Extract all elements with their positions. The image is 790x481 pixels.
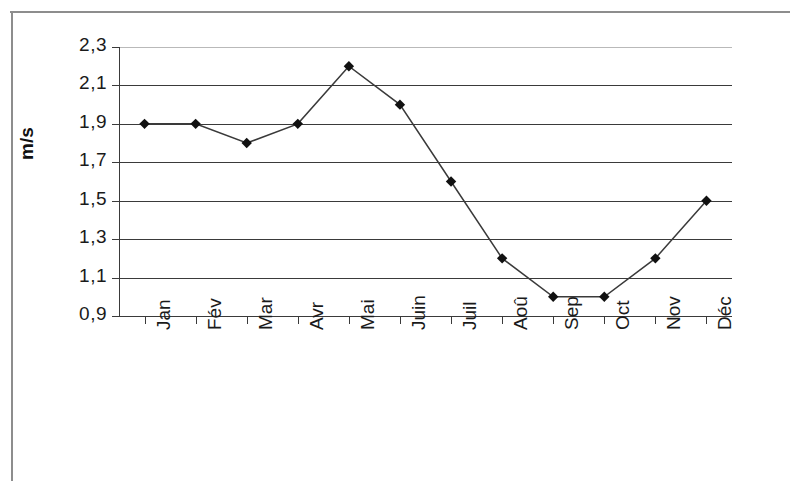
x-axis-tick-label: Mar: [255, 297, 277, 330]
gridline: [119, 201, 732, 202]
x-axis-tick-label: Juil: [459, 301, 481, 330]
y-axis-title: m/s: [16, 127, 38, 160]
y-axis-tick: [112, 201, 119, 202]
scanned-page: m/s 2,32,11,91,71,51,31,10,9 JanFévMarAv…: [0, 0, 790, 481]
y-axis-tick: [112, 239, 119, 240]
x-axis-tick: [298, 316, 299, 324]
y-axis-tick-label: 0,9: [47, 303, 107, 325]
x-axis-tick-label: Aoû: [510, 296, 532, 330]
y-axis-line: [119, 47, 120, 316]
x-axis-tick: [349, 316, 350, 324]
x-axis-tick-label: Nov: [663, 296, 685, 330]
y-axis-tick-label: 1,1: [47, 265, 107, 287]
x-axis-tick: [604, 316, 605, 324]
x-axis-tick-label: Avr: [306, 302, 328, 330]
x-axis-tick-label: Sep: [561, 296, 583, 330]
y-axis-tick: [112, 85, 119, 86]
y-axis-tick: [112, 47, 119, 48]
y-axis-tick-label: 1,9: [47, 111, 107, 133]
y-axis-tick-label: 1,7: [47, 149, 107, 171]
y-axis-tick: [112, 162, 119, 163]
x-axis-tick: [145, 316, 146, 324]
y-axis-tick-label: 1,5: [47, 188, 107, 210]
y-axis-tick: [112, 124, 119, 125]
y-axis-tick-label: 2,1: [47, 72, 107, 94]
x-axis-tick: [451, 316, 452, 324]
gridline: [119, 239, 732, 240]
x-axis-tick: [400, 316, 401, 324]
x-axis-tick-label: Juin: [408, 295, 430, 330]
y-axis-tick: [112, 316, 119, 317]
gridline: [119, 124, 732, 125]
x-axis-tick-label: Fév: [204, 298, 226, 330]
plot-area: [119, 47, 732, 316]
x-axis-tick: [247, 316, 248, 324]
x-axis-tick-label: Mai: [357, 299, 379, 330]
x-axis-tick: [655, 316, 656, 324]
x-axis-tick-label: Oct: [612, 300, 634, 330]
y-axis-tick-label: 1,3: [47, 226, 107, 248]
gridline: [119, 85, 732, 86]
y-axis-tick: [112, 278, 119, 279]
gridline: [119, 47, 732, 48]
y-axis-tick-labels: 2,32,11,91,71,51,31,10,9: [43, 0, 107, 481]
y-axis-tick-label: 2,3: [47, 34, 107, 56]
gridline: [119, 162, 732, 163]
gridline: [119, 278, 732, 279]
x-axis-tick: [706, 316, 707, 324]
x-axis-tick-label: Jan: [153, 299, 175, 330]
line-chart: m/s 2,32,11,91,71,51,31,10,9 JanFévMarAv…: [0, 0, 790, 481]
x-axis-tick-label: Déc: [714, 296, 736, 330]
x-axis-tick: [553, 316, 554, 324]
x-axis-tick: [502, 316, 503, 324]
x-axis-tick: [196, 316, 197, 324]
